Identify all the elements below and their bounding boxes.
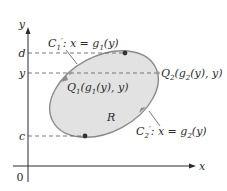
c1-leader-line bbox=[66, 50, 77, 64]
y-level-label: y bbox=[18, 67, 26, 80]
region-label: R bbox=[106, 111, 115, 124]
c1-label: C1′: x = g1(y) bbox=[48, 36, 119, 52]
c2-label: C2′: x = g2(y) bbox=[136, 124, 207, 140]
top-point bbox=[123, 51, 128, 56]
green-theorem-region-diagram: y x 0 d y c R C1′: x = g1(y) C2′: x = g2… bbox=[0, 0, 227, 191]
q2-label: Q2(g2(y), y) bbox=[161, 67, 223, 82]
q2-point bbox=[156, 71, 160, 75]
c-label: c bbox=[19, 130, 25, 143]
y-axis-label: y bbox=[18, 18, 26, 31]
q1-point bbox=[68, 71, 72, 75]
bottom-point bbox=[83, 134, 88, 139]
y-axis-arrow-icon bbox=[26, 27, 31, 34]
d-label: d bbox=[18, 47, 25, 60]
x-axis-label: x bbox=[199, 160, 206, 173]
origin-label: 0 bbox=[17, 171, 24, 184]
x-axis-arrow-icon bbox=[189, 164, 196, 169]
